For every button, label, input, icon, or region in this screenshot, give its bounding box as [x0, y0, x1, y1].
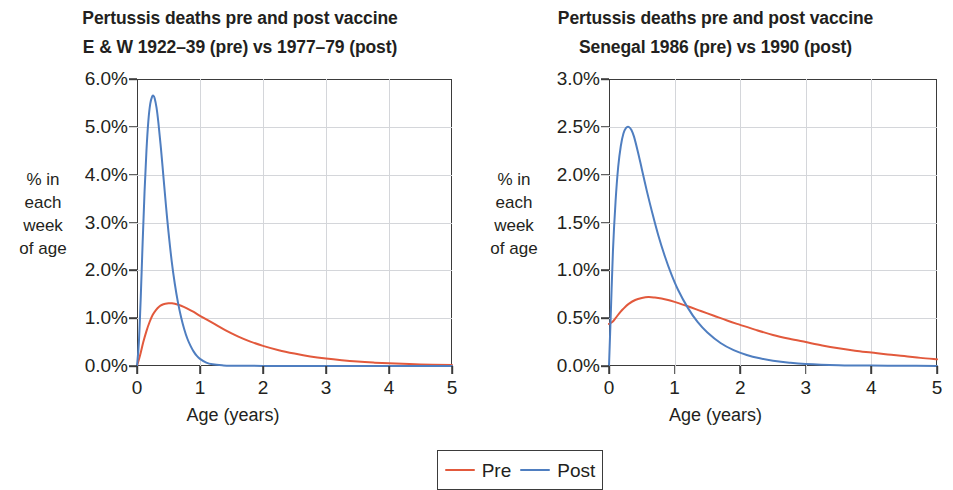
y-tick-mark — [601, 126, 609, 128]
y-tick-mark — [129, 174, 137, 176]
x-tick-label: 3 — [321, 377, 332, 399]
y-tick-mark — [601, 222, 609, 224]
x-tick-label: 4 — [384, 377, 395, 399]
chart-title-line-1: Pertussis deaths pre and post vaccine — [0, 4, 480, 33]
legend-swatch-post-icon — [520, 469, 550, 472]
x-tick-mark — [936, 366, 938, 374]
legend-label-pre: Pre — [482, 461, 512, 480]
series-line-post — [137, 96, 452, 366]
x-tick-label: 1 — [669, 377, 680, 399]
y-tick-mark — [129, 270, 137, 272]
y-tick-mark — [129, 78, 137, 80]
chart-title-right: Pertussis deaths pre and post vaccine Se… — [478, 4, 953, 62]
x-tick-mark — [199, 366, 201, 374]
y-axis-title-left: % in each week of age — [6, 168, 80, 260]
y-tick-label: 1.5% — [557, 212, 600, 234]
chart-panel-left: Pertussis deaths pre and post vaccine E … — [0, 0, 480, 430]
y-tick-label: 2.0% — [557, 164, 600, 186]
y-tick-mark — [601, 174, 609, 176]
y-axis-title-line: each — [6, 191, 80, 214]
x-tick-mark — [325, 366, 327, 374]
x-tick-label: 5 — [932, 377, 943, 399]
chart-title-left: Pertussis deaths pre and post vaccine E … — [0, 4, 480, 62]
x-tick-mark — [805, 366, 807, 374]
y-tick-mark — [601, 317, 609, 319]
y-tick-label: 4.0% — [85, 164, 128, 186]
x-tick-label: 2 — [735, 377, 746, 399]
y-axis-title-line: % in — [478, 168, 550, 191]
series-line-pre — [609, 297, 937, 359]
series-line-post — [609, 127, 937, 366]
curves-left — [137, 79, 452, 366]
x-tick-mark — [451, 366, 453, 374]
x-tick-label: 1 — [195, 377, 206, 399]
x-tick-label: 0 — [604, 377, 615, 399]
x-tick-mark — [739, 366, 741, 374]
x-tick-label: 0 — [132, 377, 143, 399]
x-axis-title-left: Age (years) — [0, 405, 480, 426]
y-axis-title-line: % in — [6, 168, 80, 191]
y-tick-label: 2.0% — [85, 259, 128, 281]
legend-swatch-pre-icon — [445, 469, 475, 472]
y-tick-label: 3.0% — [557, 68, 600, 90]
x-tick-mark — [136, 366, 138, 374]
x-tick-mark — [608, 366, 610, 374]
chart-legend: Pre Post — [437, 450, 603, 490]
y-tick-label: 5.0% — [85, 116, 128, 138]
y-axis-title-line: of age — [478, 237, 550, 260]
curves-right — [609, 79, 937, 366]
y-tick-mark — [129, 222, 137, 224]
y-tick-label: 0.0% — [557, 355, 600, 377]
y-tick-label: 1.0% — [557, 259, 600, 281]
plot-area-right: 0.0%0.5%1.0%1.5%2.0%2.5%3.0%012345 — [609, 79, 937, 366]
legend-label-post: Post — [557, 461, 595, 480]
legend-item-post[interactable]: Post — [520, 461, 595, 480]
y-tick-label: 0.5% — [557, 307, 600, 329]
y-tick-mark — [601, 78, 609, 80]
y-tick-label: 3.0% — [85, 212, 128, 234]
chart-title-line-2: Senegal 1986 (pre) vs 1990 (post) — [478, 33, 953, 62]
y-tick-label: 2.5% — [557, 116, 600, 138]
y-tick-mark — [601, 270, 609, 272]
series-line-pre — [137, 303, 452, 366]
x-axis-title-right: Age (years) — [478, 405, 953, 426]
y-axis-title-line: week — [478, 214, 550, 237]
y-axis-title-line: week — [6, 214, 80, 237]
y-axis-title-line: of age — [6, 237, 80, 260]
x-tick-label: 4 — [866, 377, 877, 399]
x-tick-mark — [674, 366, 676, 374]
chart-title-line-1: Pertussis deaths pre and post vaccine — [478, 4, 953, 33]
x-tick-label: 3 — [801, 377, 812, 399]
y-axis-title-right: % in each week of age — [478, 168, 550, 260]
y-axis-title-line: each — [478, 191, 550, 214]
x-tick-mark — [388, 366, 390, 374]
x-tick-mark — [262, 366, 264, 374]
y-tick-mark — [129, 317, 137, 319]
x-tick-label: 2 — [258, 377, 269, 399]
x-tick-mark — [871, 366, 873, 374]
chart-title-line-2: E & W 1922–39 (pre) vs 1977–79 (post) — [0, 33, 480, 62]
y-tick-mark — [129, 126, 137, 128]
y-tick-label: 6.0% — [85, 68, 128, 90]
y-tick-label: 0.0% — [85, 355, 128, 377]
y-tick-label: 1.0% — [85, 307, 128, 329]
legend-item-pre[interactable]: Pre — [445, 461, 512, 480]
plot-area-left: 0.0%1.0%2.0%3.0%4.0%5.0%6.0%012345 — [137, 79, 452, 366]
x-tick-label: 5 — [447, 377, 458, 399]
